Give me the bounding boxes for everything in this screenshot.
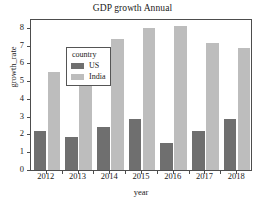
legend-swatch-india	[71, 74, 84, 80]
y-axis-label: growth_rate	[8, 2, 18, 132]
bar-india-2018	[238, 48, 251, 170]
plot-area: country USIndia	[30, 19, 252, 171]
x-tick-mark	[173, 171, 174, 174]
bar-us-2017	[192, 131, 205, 170]
x-tick-mark	[78, 171, 79, 174]
x-tick-mark-minor	[93, 171, 94, 174]
legend-entry-india: India	[71, 72, 105, 82]
bar-india-2016	[174, 26, 187, 170]
x-tick-mark-minor	[62, 171, 63, 174]
bar-us-2016	[160, 143, 173, 171]
x-tick-mark-minor	[157, 171, 158, 174]
legend-entry-us: US	[71, 61, 105, 71]
x-tick-mark-minor	[125, 171, 126, 174]
bar-india-2014	[111, 39, 124, 170]
chart-legend: country USIndia	[66, 47, 111, 86]
y-tick-label: 4	[20, 93, 24, 104]
x-tick-mark	[109, 171, 110, 174]
bar-us-2013	[65, 137, 78, 170]
x-tick-mark	[204, 171, 205, 174]
bar-us-2015	[129, 119, 142, 170]
bar-india-2012	[48, 72, 61, 170]
y-tick-label: 3	[20, 111, 24, 122]
bar-india-2017	[206, 43, 219, 170]
y-tick-label: 8	[20, 22, 24, 33]
legend-entries: USIndia	[71, 61, 105, 82]
bar-us-2014	[97, 127, 110, 170]
chart-title: GDP growth Annual	[0, 3, 265, 13]
x-tick-mark-minor	[189, 171, 190, 174]
legend-swatch-us	[71, 63, 84, 69]
chart-root: GDP growth Annual growth_rate year 01234…	[0, 0, 265, 204]
x-tick-mark	[141, 171, 142, 174]
bar-india-2015	[143, 28, 156, 170]
y-tick-label: 0	[20, 164, 24, 175]
legend-title: country	[72, 50, 105, 60]
y-tick-label: 1	[20, 146, 24, 157]
y-tick-label: 7	[20, 40, 24, 51]
y-tick-label: 5	[20, 75, 24, 86]
y-tick-label: 2	[20, 128, 24, 139]
y-tick-label: 6	[20, 57, 24, 68]
legend-label-india: India	[89, 72, 105, 82]
x-axis-label: year	[30, 187, 252, 197]
x-tick-mark-minor	[220, 171, 221, 174]
x-tick-mark	[46, 171, 47, 174]
legend-label-us: US	[89, 61, 99, 71]
bar-us-2012	[34, 131, 47, 170]
x-tick-mark	[236, 171, 237, 174]
bar-us-2018	[224, 119, 237, 170]
